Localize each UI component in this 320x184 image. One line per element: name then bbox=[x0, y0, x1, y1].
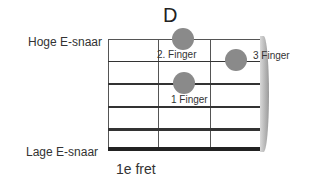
high-string-label: Hoge E-snaar bbox=[28, 35, 102, 49]
finger-label-1: 1 Finger bbox=[171, 94, 208, 105]
finger-dot-3 bbox=[225, 49, 247, 71]
string-d bbox=[108, 106, 261, 108]
finger-label-3: 3 Finger bbox=[253, 50, 290, 61]
finger-label-2: 2. Finger bbox=[157, 49, 196, 60]
finger-dot-2 bbox=[172, 28, 194, 50]
chord-name: D bbox=[163, 4, 177, 27]
fret-line bbox=[210, 39, 211, 150]
string-low-e bbox=[108, 147, 261, 151]
finger-dot-1 bbox=[173, 72, 195, 94]
fret-label: 1e fret bbox=[116, 161, 156, 177]
string-a bbox=[108, 128, 261, 131]
low-string-label: Lage E-snaar bbox=[26, 145, 98, 159]
fret-line bbox=[108, 39, 109, 150]
